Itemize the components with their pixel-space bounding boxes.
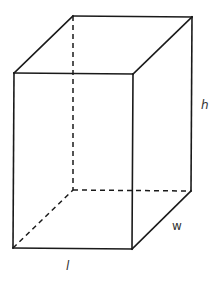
- edge-bottom-right-depth: [132, 191, 191, 249]
- edge-front-right: [132, 74, 133, 249]
- edge-top-right-depth: [133, 17, 192, 74]
- edge-front-top: [14, 73, 133, 74]
- label-length: l: [66, 259, 70, 273]
- hidden-edge-bottom-depth: [13, 190, 73, 248]
- edge-top-left-depth: [14, 16, 73, 73]
- edge-front-left: [13, 73, 14, 248]
- label-height: h: [201, 98, 209, 112]
- edge-back-right: [191, 17, 192, 191]
- edge-back-top: [73, 16, 192, 17]
- edge-front-bottom: [13, 248, 132, 249]
- label-width: w: [172, 219, 182, 233]
- rectangular-prism-diagram: h w l: [0, 0, 215, 281]
